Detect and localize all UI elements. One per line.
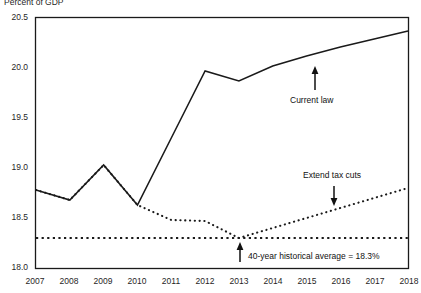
- annotation-label-historical-average: 40-year historical average = 18.3%: [248, 251, 380, 261]
- annotation-label-current-law: Current law: [290, 95, 333, 105]
- annotation-label-extend-tax-cuts: Extend tax cuts: [303, 170, 361, 180]
- annotation-arrow-historical-average: [237, 242, 244, 262]
- annotation-arrow-extend-tax-cuts: [331, 186, 338, 206]
- chart-plot-area: [0, 0, 421, 293]
- plot-frame: [36, 18, 409, 269]
- chart-container: Percent of GDP 20.5 20.0 19.5 19.0 18.5 …: [0, 0, 421, 293]
- annotation-arrow-current-law: [312, 66, 319, 90]
